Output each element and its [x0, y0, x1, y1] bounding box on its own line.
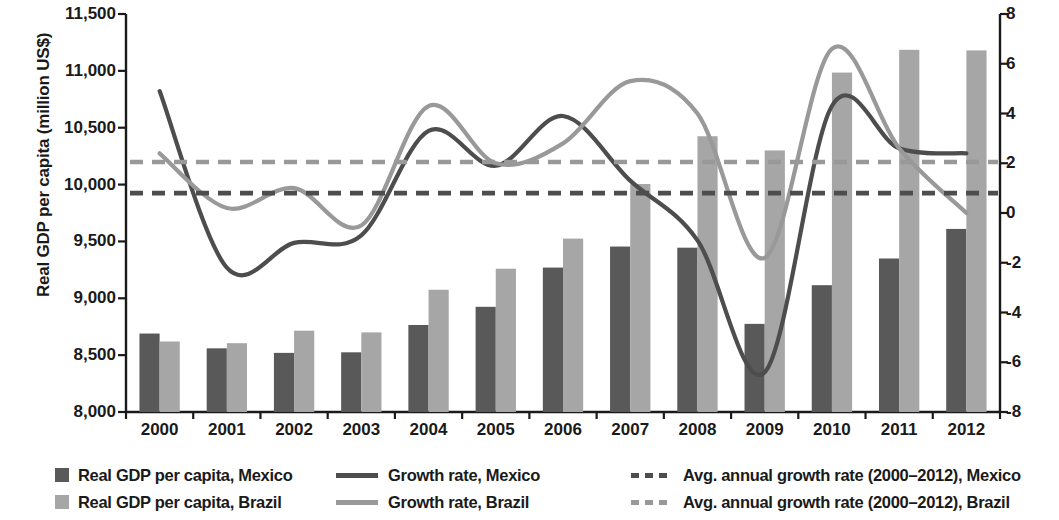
- chart-figure: Real GDP per capita (million US$) Growth…: [0, 0, 1059, 520]
- bar-mexico: [341, 352, 361, 412]
- bar-brazil: [563, 239, 583, 412]
- bar-mexico: [543, 268, 563, 412]
- bar-mexico: [476, 307, 496, 412]
- legend-label: Growth rate, Brazil: [388, 494, 529, 511]
- legend-item-gdp-brazil: Real GDP per capita, Brazil: [55, 489, 281, 515]
- bar-mexico: [812, 285, 832, 412]
- bar-mexico: [677, 248, 697, 412]
- legend-label: Real GDP per capita, Brazil: [78, 494, 281, 511]
- legend-line-solid: [336, 500, 378, 505]
- legend-line-solid: [336, 473, 378, 478]
- bar-brazil: [429, 290, 449, 412]
- legend-item-avg-mexico: Avg. annual growth rate (2000–2012), Mex…: [631, 462, 1021, 488]
- bar-brazil: [361, 332, 381, 412]
- bar-mexico: [610, 247, 630, 412]
- legend-item-growth-brazil: Growth rate, Brazil: [336, 489, 529, 515]
- plot-area: [0, 0, 1059, 440]
- bar-brazil: [630, 184, 650, 412]
- bar-mexico: [207, 348, 227, 412]
- legend-line-dashed: [631, 473, 673, 478]
- legend-item-gdp-mexico: Real GDP per capita, Mexico: [55, 462, 292, 488]
- bar-brazil: [160, 341, 180, 412]
- legend-swatch-square: [55, 468, 69, 482]
- chart-legend: Real GDP per capita, Mexico Real GDP per…: [0, 460, 1059, 520]
- legend-label: Growth rate, Mexico: [388, 467, 540, 484]
- bar-brazil: [899, 50, 919, 412]
- bar-mexico: [946, 229, 966, 412]
- bar-brazil: [765, 150, 785, 412]
- legend-label: Avg. annual growth rate (2000–2012), Mex…: [683, 467, 1021, 484]
- legend-line-dashed: [631, 500, 673, 505]
- legend-item-avg-brazil: Avg. annual growth rate (2000–2012), Bra…: [631, 489, 1010, 515]
- bar-brazil: [966, 50, 986, 412]
- bar-mexico: [274, 353, 294, 412]
- bar-mexico: [139, 334, 159, 412]
- legend-label: Real GDP per capita, Mexico: [78, 467, 292, 484]
- bar-mexico: [879, 258, 899, 412]
- bar-brazil: [227, 343, 247, 412]
- legend-item-growth-mexico: Growth rate, Mexico: [336, 462, 540, 488]
- bar-brazil: [294, 331, 314, 412]
- bar-brazil: [496, 269, 516, 412]
- bar-mexico: [408, 325, 428, 412]
- legend-label: Avg. annual growth rate (2000–2012), Bra…: [683, 494, 1010, 511]
- legend-swatch-square: [55, 495, 69, 509]
- bar-brazil: [832, 73, 852, 412]
